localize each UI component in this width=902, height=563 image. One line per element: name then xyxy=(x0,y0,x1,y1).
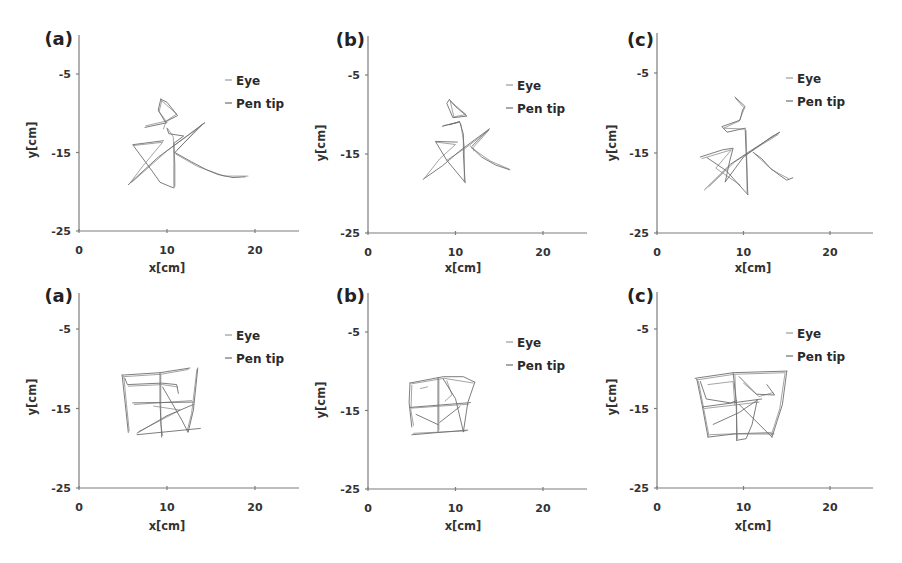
y-tick-label: -15 xyxy=(51,147,71,160)
pen-tip-trace-stroke xyxy=(463,382,474,432)
eye-trace-stroke xyxy=(709,135,778,187)
y-tick-label: -15 xyxy=(340,405,360,418)
x-tick-label: 20 xyxy=(822,246,838,259)
eye-trace-stroke xyxy=(128,385,177,387)
eye-series xyxy=(130,101,248,187)
pen-tip-trace-stroke xyxy=(442,122,460,127)
pen-tip-trace-stroke xyxy=(695,371,787,378)
y-axis-title: y[cm] xyxy=(605,125,619,162)
x-axis-title: x[cm] xyxy=(149,519,186,533)
panel-label: (a) xyxy=(44,28,73,49)
y-axis-title: y[cm] xyxy=(605,379,619,416)
pen-tip-trace-stroke xyxy=(700,382,736,403)
x-tick-label: 10 xyxy=(736,501,752,514)
eye-series xyxy=(702,99,789,193)
y-axis-title: y[cm] xyxy=(25,122,39,159)
y-tick-label: -5 xyxy=(59,323,71,336)
x-tick-label: 0 xyxy=(75,244,83,257)
x-axis-title: x[cm] xyxy=(149,261,186,275)
pen-tip-trace-stroke xyxy=(163,368,198,432)
legend: EyePen tip xyxy=(506,79,566,116)
x-tick-label: 20 xyxy=(247,244,263,257)
legend-label-pen-tip: Pen tip xyxy=(797,350,846,364)
y-tick-label: -5 xyxy=(637,67,649,80)
x-tick-label: 0 xyxy=(653,501,661,514)
pen-tip-trace-stroke xyxy=(435,141,465,182)
x-axis-title: x[cm] xyxy=(445,261,482,275)
panel-label: (b) xyxy=(336,29,365,50)
legend: EyePen tip xyxy=(225,74,285,111)
x-axis-title: x[cm] xyxy=(735,519,772,533)
pen-tip-trace-stroke xyxy=(470,146,509,170)
panel-label: (b) xyxy=(336,285,365,306)
eye-trace-stroke xyxy=(425,142,456,178)
x-tick-label: 20 xyxy=(535,502,551,515)
legend-label-eye: Eye xyxy=(517,336,541,350)
x-tick-label: 0 xyxy=(364,246,372,259)
figure-container: (a)01020-5-15-25x[cm]y[cm]EyePen tip(b)0… xyxy=(0,0,902,563)
x-axis-title: x[cm] xyxy=(445,519,482,533)
y-axis-title: y[cm] xyxy=(25,379,39,416)
x-tick-label: 20 xyxy=(822,501,838,514)
pen-tip-trace-stroke xyxy=(175,153,245,178)
eye-trace-stroke xyxy=(176,154,248,176)
x-tick-label: 10 xyxy=(159,501,175,514)
x-tick-label: 20 xyxy=(247,501,263,514)
panel-top-b: (b)01020-5-15-25x[cm]y[cm]EyePen tip xyxy=(314,29,587,275)
legend-label-eye: Eye xyxy=(517,79,541,93)
legend-label-pen-tip: Pen tip xyxy=(517,359,566,373)
legend-label-eye: Eye xyxy=(236,329,260,343)
legend: EyePen tip xyxy=(786,327,846,364)
x-tick-label: 0 xyxy=(75,501,83,514)
panel-top-a: (a)01020-5-15-25x[cm]y[cm]EyePen tip xyxy=(25,28,299,275)
panel-top-c: (c)01020-5-15-25x[cm]y[cm]EyePen tip xyxy=(605,29,873,275)
x-tick-label: 10 xyxy=(448,246,464,259)
legend: EyePen tip xyxy=(225,329,285,366)
pen-tip-trace-stroke xyxy=(416,414,438,424)
eye-trace-stroke xyxy=(124,378,129,431)
pen-tip-trace-stroke xyxy=(412,430,468,435)
legend-label-eye: Eye xyxy=(236,74,260,88)
pen-tip-trace-stroke xyxy=(137,428,200,434)
x-tick-label: 20 xyxy=(535,246,551,259)
eye-trace-stroke xyxy=(421,387,428,389)
y-tick-label: -5 xyxy=(348,69,360,82)
legend-label-eye: Eye xyxy=(797,327,821,341)
y-tick-label: -15 xyxy=(629,403,649,416)
panel-bottom-b: (b)01020-5-15-25x[cm]y[cm]EyePen tip xyxy=(314,285,587,533)
pen-tip-trace-stroke xyxy=(440,407,460,423)
y-tick-label: -15 xyxy=(629,147,649,160)
y-tick-label: -25 xyxy=(340,483,360,496)
y-tick-label: -25 xyxy=(629,482,649,495)
y-tick-label: -5 xyxy=(59,68,71,81)
eye-trace-stroke xyxy=(771,374,785,436)
x-axis-title: x[cm] xyxy=(735,261,772,275)
eye-trace-stroke xyxy=(471,148,509,169)
y-tick-label: -25 xyxy=(51,482,71,495)
legend: EyePen tip xyxy=(786,72,846,109)
pen-tip-series xyxy=(423,100,510,183)
y-tick-label: -25 xyxy=(340,227,360,240)
y-tick-label: -15 xyxy=(340,148,360,161)
pen-tip-series xyxy=(128,99,245,188)
panel-bottom-c: (c)01020-5-15-25x[cm]y[cm]EyePen tip xyxy=(605,285,873,533)
eye-trace-stroke xyxy=(187,370,197,431)
x-tick-label: 0 xyxy=(364,502,372,515)
y-axis-title: y[cm] xyxy=(314,382,328,419)
y-axis-title: y[cm] xyxy=(314,125,328,162)
legend: EyePen tip xyxy=(506,336,566,373)
panel-bottom-a: (a)01020-5-15-25x[cm]y[cm]EyePen tip xyxy=(25,285,299,533)
panel-label: (c) xyxy=(627,285,654,306)
legend-label-eye: Eye xyxy=(797,72,821,86)
x-tick-label: 0 xyxy=(653,246,661,259)
eye-trace-stroke xyxy=(132,125,202,182)
legend-label-pen-tip: Pen tip xyxy=(236,97,285,111)
pen-tip-trace-stroke xyxy=(739,377,774,395)
legend-label-pen-tip: Pen tip xyxy=(797,95,846,109)
x-tick-label: 10 xyxy=(159,244,175,257)
y-tick-label: -5 xyxy=(637,323,649,336)
panel-label: (a) xyxy=(44,285,73,306)
x-tick-label: 10 xyxy=(448,502,464,515)
pen-tip-trace-stroke xyxy=(137,405,193,434)
y-tick-label: -5 xyxy=(348,326,360,339)
